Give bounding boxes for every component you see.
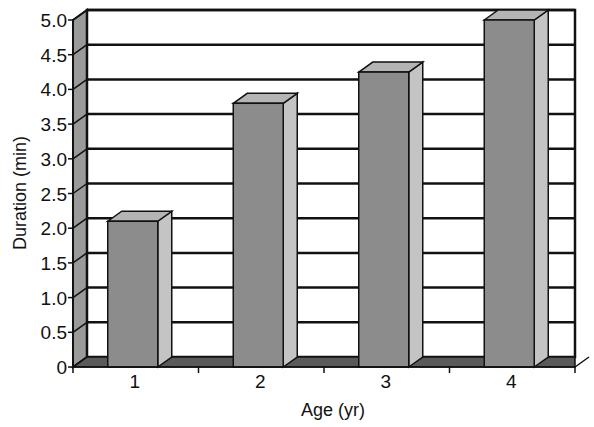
x-tick-label: 4: [506, 371, 517, 392]
y-tick-label: 0: [56, 357, 67, 378]
y-tick-label: 5.0: [41, 10, 67, 31]
y-tick-label: 3.0: [41, 149, 67, 170]
bar-front: [108, 221, 158, 367]
y-tick-label: 2.0: [41, 218, 67, 239]
y-tick-label: 1.5: [41, 253, 67, 274]
bar: [108, 211, 172, 367]
bar-front: [484, 20, 534, 367]
floor-edge: [575, 357, 589, 367]
y-tick-label: 3.5: [41, 114, 67, 135]
bar-side: [283, 93, 297, 367]
x-tick-label: 1: [129, 371, 140, 392]
x-axis-tick-labels: 1234: [129, 371, 517, 392]
y-tick-label: 2.5: [41, 184, 67, 205]
y-tick-label: 4.0: [41, 79, 67, 100]
x-axis-title: Age (yr): [301, 400, 365, 420]
x-tick-label: 2: [255, 371, 266, 392]
y-tick-label: 1.0: [41, 288, 67, 309]
bar: [359, 62, 423, 367]
y-tick-label: 4.5: [41, 45, 67, 66]
bar: [233, 93, 297, 367]
bar-side: [534, 10, 548, 367]
x-tick-label: 3: [380, 371, 391, 392]
y-axis-tick-labels: 00.51.01.52.02.53.03.54.04.55.0: [41, 10, 67, 378]
bar: [484, 10, 548, 367]
bar-chart: 00.51.01.52.02.53.03.54.04.55.0 1234 Age…: [0, 0, 594, 427]
y-axis-title: Duration (min): [10, 136, 30, 250]
bar-side: [158, 211, 172, 367]
bar-front: [233, 103, 283, 367]
y-tick-label: 0.5: [41, 322, 67, 343]
bar-side: [409, 62, 423, 367]
bar-front: [359, 72, 409, 367]
